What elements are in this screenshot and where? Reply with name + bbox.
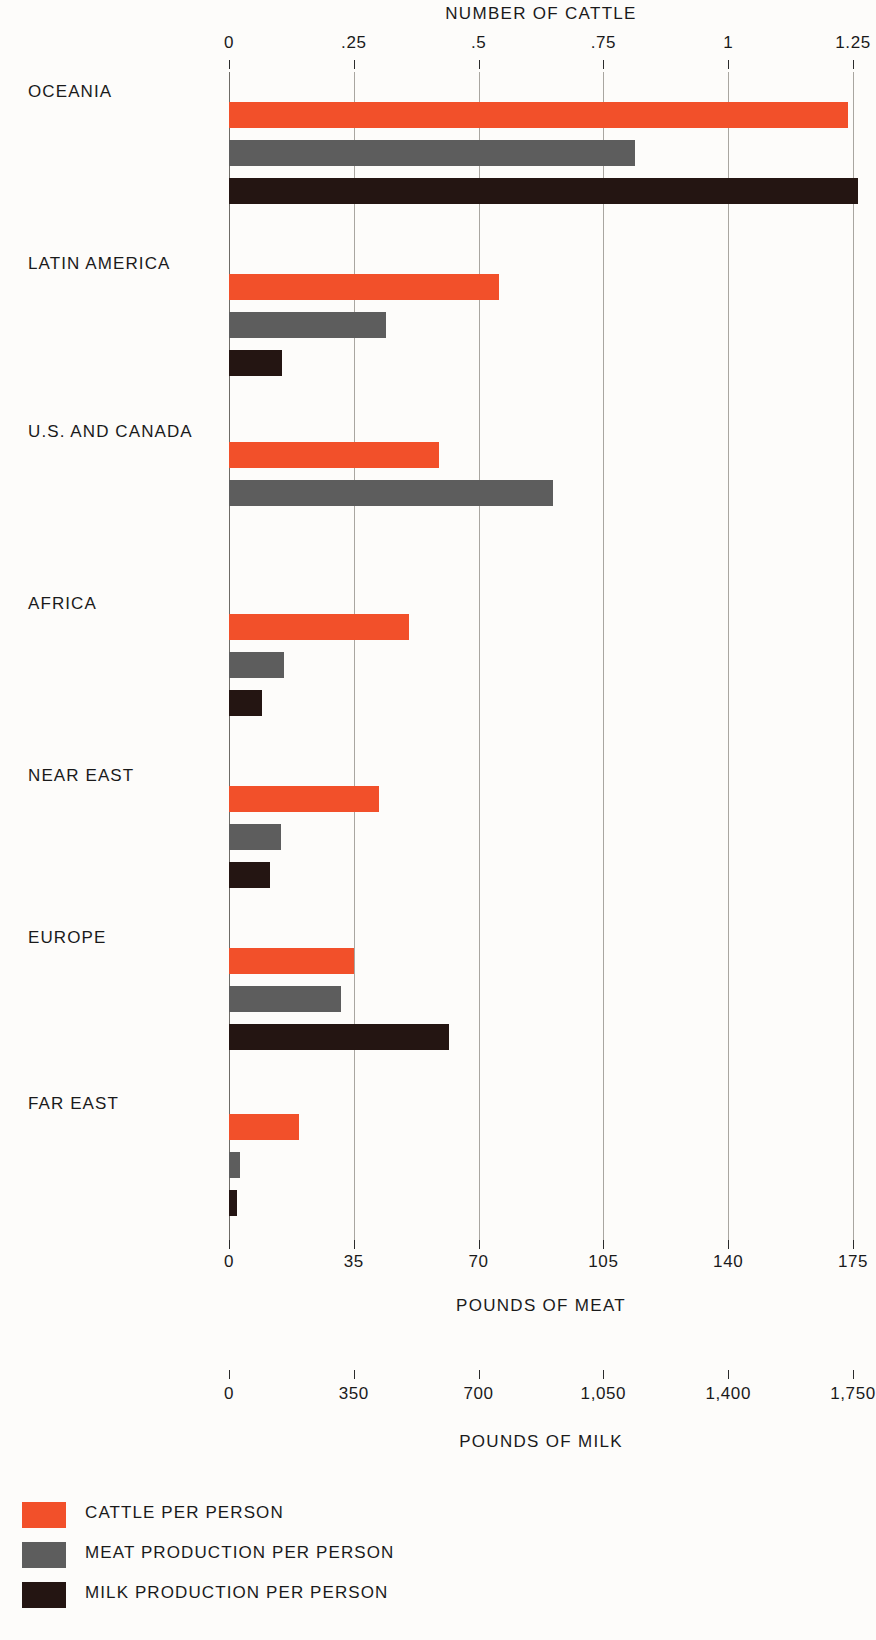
bar-group: OCEANIA [0,88,871,238]
top-axis-title: NUMBER OF CATTLE [229,4,853,24]
bar-group: U.S. AND CANADA [0,428,871,578]
meat-axis-tick-mark [479,1240,480,1249]
bar-milk [229,1024,449,1050]
milk-axis-tick-label: 0 [224,1384,234,1404]
category-label: U.S. AND CANADA [28,422,193,442]
bar-group: AFRICA [0,600,871,750]
bar-cattle [229,102,848,128]
milk-axis-tick-mark [229,1370,230,1379]
chart-legend: CATTLE PER PERSONMEAT PRODUCTION PER PER… [0,1500,871,1620]
milk-axis-tick-label: 1,050 [581,1384,627,1404]
milk-axis-tick-mark [853,1370,854,1379]
cattle-axis-tick-mark [853,60,854,69]
bar-milk [229,350,282,376]
cattle-axis-tick-mark [603,60,604,69]
cattle-axis-tick-labels: 0.25.5.7511.25 [0,33,871,55]
bar-meat [229,986,341,1012]
category-label: OCEANIA [28,82,112,102]
milk-axis-tick-mark [728,1370,729,1379]
milk-axis-tick-mark [354,1370,355,1379]
bar-cattle [229,1114,299,1140]
meat-axis-tick-label: 70 [469,1252,489,1272]
legend-swatch-icon [22,1542,66,1568]
milk-axis-tick-label: 1,400 [705,1384,751,1404]
bar-meat [229,1152,240,1178]
cattle-axis-tick-mark [354,60,355,69]
bar-meat [229,824,281,850]
meat-axis-tick-labels: 03570105140175 [0,1252,871,1274]
bar-milk [229,862,270,888]
cattle-axis-tick-mark [479,60,480,69]
meat-axis-tick-mark [354,1240,355,1249]
milk-axis-title: POUNDS OF MILK [229,1432,853,1452]
meat-axis-tick-label: 105 [588,1252,618,1272]
meat-axis-tick-label: 175 [838,1252,868,1272]
legend-item: MEAT PRODUCTION PER PERSON [0,1540,871,1580]
bar-meat [229,480,553,506]
legend-item: CATTLE PER PERSON [0,1500,871,1540]
cattle-axis-tick-label: 0 [224,33,234,53]
cattle-axis-tick-label: .75 [591,33,616,53]
bar-group: NEAR EAST [0,772,871,922]
milk-axis-tick-label: 700 [464,1384,494,1404]
cattle-axis-tick-label: 1 [723,33,733,53]
plot-area: OCEANIALATIN AMERICAU.S. AND CANADAAFRIC… [0,72,871,1242]
legend-label: CATTLE PER PERSON [85,1503,284,1523]
bar-meat [229,652,284,678]
bar-meat [229,140,635,166]
meat-axis-tick-mark [229,1240,230,1249]
legend-label: MILK PRODUCTION PER PERSON [85,1583,388,1603]
bar-milk [229,690,262,716]
bar-cattle [229,614,409,640]
milk-axis-tick-label: 1,750 [830,1384,876,1404]
milk-axis-tick-mark [603,1370,604,1379]
bar-milk [229,178,858,204]
meat-axis-title: POUNDS OF MEAT [229,1296,853,1316]
bar-cattle [229,442,439,468]
cattle-axis-tick-mark [728,60,729,69]
legend-item: MILK PRODUCTION PER PERSON [0,1580,871,1620]
category-label: LATIN AMERICA [28,254,170,274]
meat-axis-tick-label: 0 [224,1252,234,1272]
legend-swatch-icon [22,1502,66,1528]
category-label: FAR EAST [28,1094,119,1114]
bar-group: FAR EAST [0,1100,871,1250]
milk-axis-tick-labels: 03507001,0501,4001,750 [0,1384,871,1406]
meat-axis-tick-label: 140 [713,1252,743,1272]
bar-cattle [229,948,354,974]
bar-group: LATIN AMERICA [0,260,871,410]
bar-meat [229,312,386,338]
bar-cattle [229,274,499,300]
legend-swatch-icon [22,1582,66,1608]
meat-axis-tick-mark [603,1240,604,1249]
meat-axis-tick-mark [728,1240,729,1249]
bar-group: EUROPE [0,934,871,1084]
bar-milk [229,1190,237,1216]
milk-axis-tick-mark [479,1370,480,1379]
cattle-axis-tick-label: .5 [471,33,486,53]
category-label: AFRICA [28,594,97,614]
meat-axis-tick-mark [853,1240,854,1249]
legend-label: MEAT PRODUCTION PER PERSON [85,1543,394,1563]
milk-axis-tick-label: 350 [339,1384,369,1404]
cattle-axis-tick-mark [229,60,230,69]
category-label: EUROPE [28,928,106,948]
cattle-axis-tick-label: .25 [341,33,366,53]
bar-cattle [229,786,379,812]
meat-axis-tick-label: 35 [344,1252,364,1272]
category-label: NEAR EAST [28,766,134,786]
cattle-axis-tick-label: 1.25 [835,33,871,53]
